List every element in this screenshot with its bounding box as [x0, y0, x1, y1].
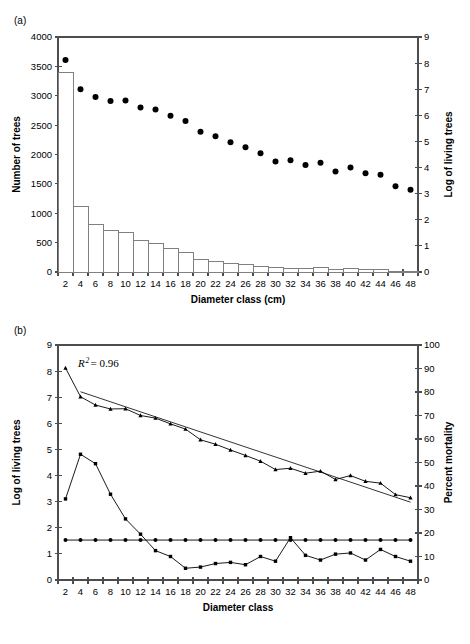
data-point	[79, 453, 82, 456]
data-point	[198, 438, 202, 442]
data-point	[393, 183, 399, 189]
series-line	[66, 368, 411, 498]
data-point	[349, 551, 352, 554]
x-axis-tick-label: 34	[300, 586, 311, 597]
r-squared-symbol: R	[77, 357, 85, 369]
x-axis-tick-label: 44	[375, 278, 386, 289]
data-point	[364, 558, 367, 561]
x-axis-tick-label: 20	[195, 278, 206, 289]
x-axis-tick-label: 38	[330, 586, 341, 597]
data-point	[258, 150, 264, 156]
data-point	[333, 168, 339, 174]
data-point	[228, 139, 234, 145]
right-axis-tick-label: 2	[424, 214, 429, 225]
panel-b: (b)0123456789010203040506070809010024681…	[0, 320, 470, 644]
y2-axis-title: Percent mortality	[443, 421, 454, 503]
right-axis-tick-label: 0	[424, 266, 429, 277]
left-axis-tick-label: 5	[47, 444, 52, 455]
figure-container: (a)0500100015002000250030003500400001234…	[0, 0, 470, 644]
x-axis-tick-label: 30	[270, 278, 281, 289]
data-point	[168, 113, 174, 119]
left-axis-tick-label: 8	[47, 366, 52, 377]
x-axis-tick-label: 26	[240, 278, 251, 289]
x-axis-tick-label: 20	[195, 586, 206, 597]
data-point	[154, 538, 158, 542]
data-point	[64, 538, 68, 542]
x-axis-tick-label: 26	[240, 586, 251, 597]
x-axis-tick-label: 12	[135, 586, 146, 597]
bar	[238, 265, 253, 272]
data-point	[379, 538, 383, 542]
data-point	[214, 562, 217, 565]
x-axis-tick-label: 10	[120, 278, 131, 289]
bar	[118, 232, 133, 272]
left-axis-tick-label: 1500	[31, 178, 52, 189]
x-axis-tick-label: 6	[93, 586, 98, 597]
r-squared-exponent: 2	[86, 356, 90, 365]
r-squared-annotation: R2= 0.96	[77, 356, 119, 370]
x-axis-tick-label: 40	[345, 586, 356, 597]
data-point	[184, 538, 188, 542]
data-point	[379, 548, 382, 551]
bar	[283, 268, 298, 272]
data-point	[214, 538, 218, 542]
data-point	[288, 157, 294, 163]
data-point	[184, 567, 187, 570]
bar	[103, 231, 118, 272]
left-axis-tick-label: 2000	[31, 149, 52, 160]
data-point	[348, 165, 354, 171]
right-axis-tick-label: 6	[424, 110, 429, 121]
data-point	[108, 98, 114, 104]
bar	[88, 225, 103, 272]
x-axis-tick-label: 32	[285, 278, 296, 289]
x-axis-tick-label: 42	[360, 586, 371, 597]
left-axis-tick-label: 9	[47, 339, 52, 350]
data-point	[63, 57, 69, 63]
bar	[73, 206, 88, 272]
x-axis-tick-label: 22	[210, 586, 221, 597]
x-axis-tick-label: 6	[93, 278, 98, 289]
bar	[343, 268, 358, 272]
x-axis-tick-label: 48	[405, 278, 416, 289]
x-axis-tick-label: 36	[315, 586, 326, 597]
bar	[148, 243, 163, 272]
x-axis-title: Diameter class (cm)	[191, 294, 286, 305]
data-point	[244, 538, 248, 542]
right-axis-tick-label: 30	[424, 504, 435, 515]
x-axis-tick-label: 2	[63, 586, 68, 597]
data-point	[274, 538, 278, 542]
data-point	[199, 565, 202, 568]
panel-a-chart: (a)0500100015002000250030003500400001234…	[0, 0, 470, 320]
x-axis-tick-label: 48	[405, 586, 416, 597]
bar	[403, 272, 418, 273]
left-axis-tick-label: 500	[36, 237, 52, 248]
x-axis-tick-label: 16	[165, 278, 176, 289]
x-axis-tick-label: 22	[210, 278, 221, 289]
left-axis-tick-label: 1000	[31, 208, 52, 219]
right-axis-tick-label: 90	[424, 363, 435, 374]
right-axis-tick-label: 50	[424, 457, 435, 468]
data-point	[229, 561, 232, 564]
x-axis-tick-label: 44	[375, 586, 386, 597]
data-point	[349, 538, 353, 542]
data-point	[378, 172, 384, 178]
bar	[133, 240, 148, 272]
data-point	[273, 159, 279, 165]
data-point	[79, 538, 83, 542]
x-axis-tick-label: 36	[315, 278, 326, 289]
data-point	[93, 403, 97, 407]
y-axis-title: Log of living trees	[11, 419, 22, 506]
x-axis-tick-label: 24	[225, 278, 236, 289]
data-point	[394, 555, 397, 558]
bar	[178, 252, 193, 272]
bar	[268, 268, 283, 272]
x-axis-title: Diameter class	[203, 602, 274, 613]
right-axis-tick-label: 0	[424, 574, 429, 585]
x-axis-tick-label: 24	[225, 586, 236, 597]
right-axis-tick-label: 9	[424, 31, 429, 42]
x-axis-tick-label: 14	[150, 278, 161, 289]
bar	[193, 259, 208, 272]
data-point	[109, 538, 113, 542]
data-point	[169, 538, 173, 542]
right-axis-tick-label: 20	[424, 527, 435, 538]
